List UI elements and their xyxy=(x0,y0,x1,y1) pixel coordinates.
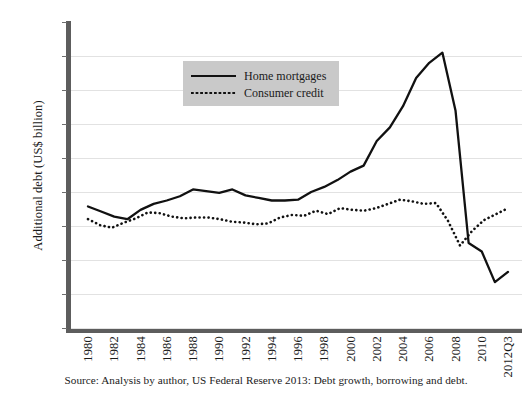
y-tick-mark xyxy=(62,226,67,227)
x-tick-label: 2010 xyxy=(476,336,489,362)
y-tick-mark xyxy=(62,328,67,329)
x-tick-label: 2008 xyxy=(450,336,463,362)
x-tick-label: 2004 xyxy=(397,336,410,362)
y-tick-mark xyxy=(62,124,67,125)
chart-legend: Home mortgages Consumer credit xyxy=(183,61,339,106)
legend-label-consumer-credit: Consumer credit xyxy=(244,87,324,99)
x-tick-label: 1990 xyxy=(213,336,226,362)
source-caption: Source: Analysis by author, US Federal R… xyxy=(0,374,532,386)
x-tick-label: 1994 xyxy=(266,336,279,362)
x-tick-label: 1986 xyxy=(161,336,174,362)
x-tick-label: 2000 xyxy=(345,336,358,362)
y-axis-title: Additional debt (US$ billion) xyxy=(31,46,46,306)
chart-figure: Additional debt (US$ billion) 1200100080… xyxy=(0,0,532,397)
x-tick-label: 2006 xyxy=(423,336,436,362)
legend-swatch-solid-icon xyxy=(191,71,236,81)
legend-swatch-dotted-icon xyxy=(191,88,236,98)
x-tick-label: 2002 xyxy=(371,336,384,362)
x-tick-label: 1992 xyxy=(240,336,253,362)
gridline xyxy=(71,328,522,329)
plot-area: 120010008006004002000-200-400-600 198019… xyxy=(71,22,522,328)
legend-label-home-mortgages: Home mortgages xyxy=(244,70,326,82)
legend-item-home-mortgages: Home mortgages xyxy=(191,67,331,84)
y-tick-mark xyxy=(62,56,67,57)
y-tick-mark xyxy=(62,90,67,91)
legend-item-consumer-credit: Consumer credit xyxy=(191,84,331,101)
x-tick-label: 1988 xyxy=(187,336,200,362)
x-tick-label: 1996 xyxy=(292,336,305,362)
series-line-consumer-credit xyxy=(88,200,508,246)
y-tick-mark xyxy=(62,192,67,193)
y-tick-mark xyxy=(62,260,67,261)
x-tick-label: 1984 xyxy=(135,336,148,362)
x-tick-label: 2012Q3 xyxy=(502,336,515,377)
x-tick-label: 1980 xyxy=(82,336,95,362)
y-tick-mark xyxy=(62,294,67,295)
x-tick-label: 1982 xyxy=(108,336,121,362)
x-tick-label: 1998 xyxy=(318,336,331,362)
y-tick-mark xyxy=(62,158,67,159)
y-tick-mark xyxy=(62,22,67,23)
